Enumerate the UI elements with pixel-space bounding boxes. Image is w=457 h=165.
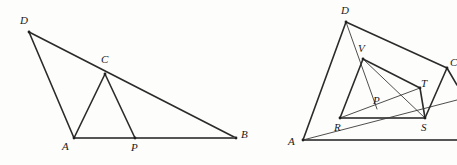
segment-C-extension xyxy=(447,68,457,85)
point-label-p: P xyxy=(130,141,138,153)
vertex-dot-c xyxy=(104,73,107,76)
point-label-c: C xyxy=(450,56,457,68)
segment-AC xyxy=(74,74,105,138)
point-label-p: P xyxy=(372,94,380,106)
vertex-dot-c xyxy=(446,67,449,70)
segment-DB xyxy=(29,32,236,138)
vertex-dot-d xyxy=(345,21,348,24)
segment-VS xyxy=(363,59,425,118)
segment-VT xyxy=(363,59,420,88)
segment-DA xyxy=(29,32,74,138)
vertex-dot-b xyxy=(235,137,238,140)
segment-VR xyxy=(340,59,363,118)
geometry-canvas: DCAPBDVCTPRSA xyxy=(0,0,457,165)
vertex-dot-a xyxy=(73,137,76,140)
vertex-dot-r xyxy=(339,117,342,120)
segment-CS xyxy=(425,68,447,118)
point-label-d: D xyxy=(340,4,349,16)
triangle-adc-with-inner-quadrilateral-rstv: DVCTPRSA xyxy=(287,4,457,147)
segment-AR-extended xyxy=(303,100,457,140)
vertex-dot-v xyxy=(362,58,365,61)
triangle-dab-with-inscribed-triangle-acp: DCAPB xyxy=(19,14,248,153)
segment-RT-diagonal xyxy=(340,88,420,118)
vertex-dot-a xyxy=(302,139,305,142)
point-label-c: C xyxy=(101,53,109,65)
point-label-a: A xyxy=(61,140,69,152)
point-label-s: S xyxy=(421,121,427,133)
point-label-t: T xyxy=(421,77,428,89)
geometry-figure-sheet: DCAPBDVCTPRSA xyxy=(0,0,457,165)
vertex-dot-d xyxy=(28,31,31,34)
point-label-d: D xyxy=(19,14,28,26)
point-label-r: R xyxy=(333,121,341,133)
vertex-dot-s xyxy=(424,117,427,120)
point-label-v: V xyxy=(358,42,366,54)
vertex-dot-p xyxy=(134,137,137,140)
point-label-b: B xyxy=(241,128,248,140)
point-label-a: A xyxy=(287,135,295,147)
